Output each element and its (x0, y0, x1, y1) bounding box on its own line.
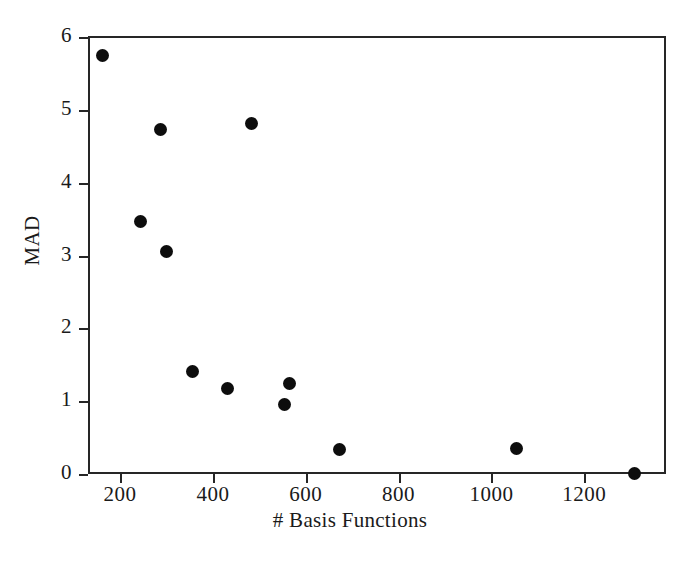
y-tick-label: 6 (20, 23, 72, 48)
y-tick-mark (79, 37, 88, 39)
plot-area-frame (88, 36, 666, 474)
data-point (510, 442, 523, 455)
y-tick-mark (79, 474, 88, 476)
y-tick-label: 2 (20, 314, 72, 339)
y-tick-label: 5 (20, 96, 72, 121)
data-point (278, 398, 291, 411)
y-tick-mark (79, 110, 88, 112)
x-tick-label: 1200 (544, 482, 624, 507)
x-tick-label: 600 (266, 482, 346, 507)
y-tick-mark (79, 401, 88, 403)
x-tick-label: 800 (359, 482, 439, 507)
x-axis-title: # Basis Functions (0, 508, 700, 533)
y-tick-label: 1 (20, 387, 72, 412)
data-point (628, 467, 641, 480)
data-point (221, 382, 234, 395)
x-tick-label: 1000 (451, 482, 531, 507)
y-axis-title: MAD (20, 171, 45, 311)
data-point (154, 123, 167, 136)
data-point (96, 49, 109, 62)
x-tick-label: 400 (173, 482, 253, 507)
data-point (160, 245, 173, 258)
data-point (333, 443, 346, 456)
y-tick-mark (79, 328, 88, 330)
y-tick-label: 0 (20, 460, 72, 485)
y-tick-mark (79, 256, 88, 258)
scatter-chart-figure: 20040060080010001200 0123456 # Basis Fun… (0, 0, 700, 563)
y-tick-mark (79, 183, 88, 185)
x-tick-label: 200 (80, 482, 160, 507)
